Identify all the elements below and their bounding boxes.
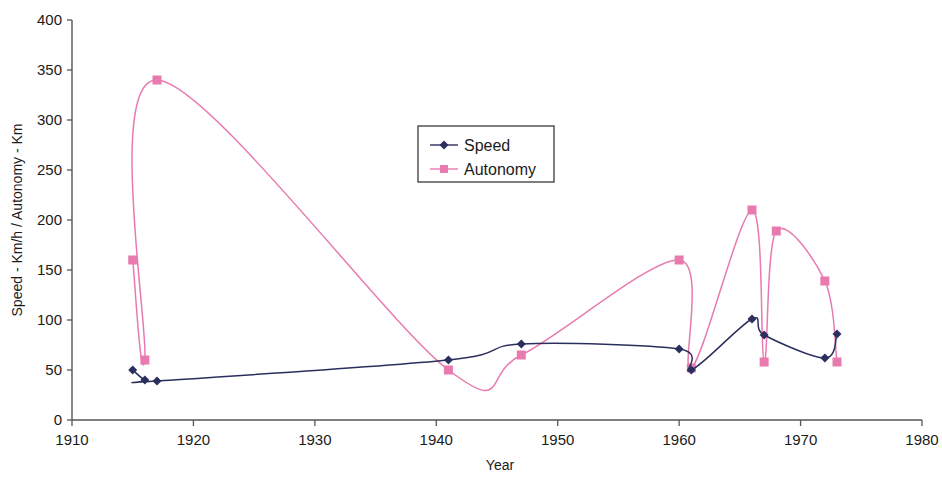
- diamond-marker-icon: [748, 315, 757, 324]
- x-tick-label: 1970: [784, 431, 817, 448]
- y-tick-label: 150: [37, 261, 62, 278]
- series-autonomy: [128, 76, 841, 391]
- diamond-marker-icon: [444, 356, 453, 365]
- x-tick-label: 1930: [298, 431, 331, 448]
- diamond-marker-icon: [675, 345, 684, 354]
- x-tick-label: 1980: [905, 431, 938, 448]
- square-marker-icon: [140, 356, 149, 365]
- diamond-marker-icon: [517, 340, 526, 349]
- y-tick-label: 0: [54, 411, 62, 428]
- square-marker-icon: [772, 227, 781, 236]
- x-tick-label: 1910: [55, 431, 88, 448]
- x-tick-label: 1960: [662, 431, 695, 448]
- x-tick-label: 1920: [177, 431, 210, 448]
- chart-legend: Speed Autonomy: [418, 126, 554, 182]
- y-tick-label: 350: [37, 61, 62, 78]
- square-marker-icon: [440, 165, 448, 173]
- y-tick-label: 300: [37, 111, 62, 128]
- data-series-layer: [128, 76, 841, 391]
- y-tick-label: 200: [37, 211, 62, 228]
- y-axis-ticks: 050100150200250300350400: [37, 11, 72, 428]
- y-tick-label: 100: [37, 311, 62, 328]
- y-tick-label: 50: [45, 361, 62, 378]
- x-tick-label: 1950: [541, 431, 574, 448]
- y-tick-label: 400: [37, 11, 62, 28]
- legend-label-autonomy: Autonomy: [464, 161, 536, 178]
- y-tick-label: 250: [37, 161, 62, 178]
- square-marker-icon: [820, 277, 829, 286]
- square-marker-icon: [833, 358, 842, 367]
- square-marker-icon: [675, 256, 684, 265]
- y-axis-title: Speed - Km/h / Autonomy - Km: [9, 124, 25, 317]
- line-chart: 050100150200250300350400 191019201930194…: [0, 0, 942, 479]
- diamond-marker-icon: [153, 377, 162, 386]
- x-axis-title: Year: [486, 457, 515, 473]
- square-marker-icon: [444, 366, 453, 375]
- square-marker-icon: [517, 351, 526, 360]
- square-marker-icon: [153, 76, 162, 85]
- square-marker-icon: [760, 358, 769, 367]
- square-marker-icon: [128, 256, 137, 265]
- x-tick-label: 1940: [420, 431, 453, 448]
- chart-container: 050100150200250300350400 191019201930194…: [0, 0, 942, 479]
- diamond-marker-icon: [820, 354, 829, 363]
- legend-label-speed: Speed: [464, 137, 510, 154]
- series-speed: [128, 315, 841, 386]
- square-marker-icon: [748, 206, 757, 215]
- x-axis-ticks: 19101920193019401950196019701980: [55, 420, 938, 448]
- axes-group: [72, 20, 922, 420]
- diamond-marker-icon: [140, 376, 149, 385]
- series-line-speed: [132, 318, 837, 383]
